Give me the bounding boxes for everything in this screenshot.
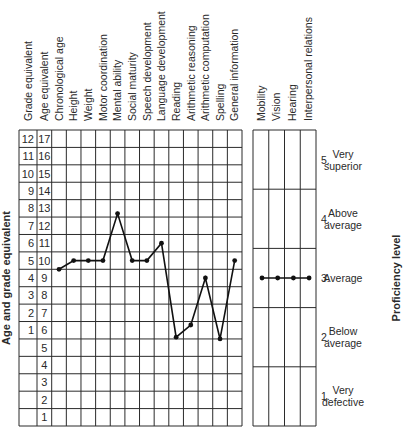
column-headers: Grade equivalentAge equivalentChronologi… [22, 11, 314, 121]
grade-tick-label: 11 [23, 150, 34, 162]
grade-tick-label: 10 [22, 168, 34, 180]
grade-tick-label: 3 [28, 289, 34, 301]
grade-tick-label: 9 [28, 185, 34, 197]
age-tick-label: 17 [38, 133, 50, 145]
column-header-label: Reading [170, 82, 182, 121]
prof-data-point [275, 276, 280, 281]
data-point [159, 241, 164, 246]
data-point [232, 258, 237, 263]
age-tick-label: 11 [39, 237, 50, 249]
data-point [86, 258, 91, 263]
column-header-label: Arithmetic computation [199, 14, 211, 121]
age-tick-label: 6 [41, 324, 47, 336]
grade-tick-label: 1 [28, 324, 34, 336]
y-axis-title-left: Age and grade equivalent [0, 211, 12, 345]
grade-tick-label: 2 [28, 307, 34, 319]
data-point [115, 211, 120, 216]
column-header-label: Motor coordination [97, 34, 109, 121]
column-header-label: Language development [155, 11, 167, 121]
age-tick-label: 2 [41, 394, 47, 406]
age-grade-tick-labels: 1211109876543211716151413121110987654321 [22, 133, 51, 424]
data-point [101, 258, 106, 263]
prof-data-point [307, 276, 312, 281]
data-point [71, 258, 76, 263]
data-point [188, 323, 193, 328]
data-point [57, 267, 62, 272]
prof-level-label: superior [324, 160, 362, 172]
prof-level-label: average [324, 219, 362, 231]
data-point [144, 258, 149, 263]
data-point [174, 335, 179, 340]
column-header-label: General information [228, 29, 240, 121]
prof-level-label: average [324, 337, 362, 349]
grade-tick-label: 12 [22, 133, 34, 145]
age-tick-label: 14 [38, 185, 50, 197]
grade-tick-label: 4 [28, 272, 34, 284]
column-header-label: Mental ability [111, 59, 123, 121]
column-header-label: Age equivalent [38, 51, 50, 121]
data-point [218, 337, 223, 342]
column-header-label: Hearing [286, 84, 298, 121]
developmental-profile-chart: Grade equivalentAge equivalentChronologi… [0, 0, 409, 440]
column-header-label: Social maturity [126, 51, 138, 121]
proficiency-series [260, 276, 312, 281]
age-tick-label: 9 [41, 272, 47, 284]
prof-level-label: Average [324, 272, 363, 284]
prof-level-label: Below [329, 325, 358, 337]
column-header-label: Height [67, 91, 79, 121]
prof-level-label: Above [328, 207, 358, 219]
column-header-label: Mobility [255, 85, 267, 121]
age-tick-label: 8 [41, 289, 47, 301]
age-tick-label: 16 [38, 150, 50, 162]
age-tick-label: 13 [38, 202, 50, 214]
series-line [59, 214, 235, 339]
grade-tick-label: 7 [28, 220, 34, 232]
grade-tick-label: 5 [28, 255, 34, 267]
age-tick-label: 7 [41, 307, 47, 319]
age-tick-label: 4 [41, 359, 47, 371]
age-grade-grid [19, 130, 242, 426]
grade-tick-label: 6 [28, 237, 34, 249]
y-axis-title-right: Proficiency level [390, 235, 402, 322]
age-tick-label: 5 [41, 342, 47, 354]
column-header-label: Spelling [214, 83, 226, 121]
prof-level-label: Very [332, 148, 354, 160]
prof-level-label: defective [322, 396, 364, 408]
age-tick-label: 10 [38, 255, 50, 267]
column-header-label: Speech development [141, 22, 153, 121]
age-tick-label: 1 [41, 411, 47, 423]
grade-tick-label: 8 [28, 202, 34, 214]
prof-data-point [260, 276, 265, 281]
data-point [130, 258, 135, 263]
column-header-label: Chronological age [53, 36, 65, 121]
age-tick-label: 15 [38, 168, 50, 180]
data-point [203, 276, 208, 281]
age-tick-label: 3 [41, 376, 47, 388]
column-header-label: Weight [82, 88, 94, 121]
proficiency-level-labels: 5.Verysuperior4.Aboveaverage3.Average2.B… [321, 148, 364, 409]
column-header-label: Vision [270, 92, 282, 121]
age-tick-label: 12 [38, 220, 50, 232]
prof-level-label: Very [332, 384, 354, 396]
column-header-label: Grade equivalent [22, 41, 34, 121]
column-header-label: Arithmetic reasoning [185, 25, 197, 121]
column-header-label: Interpersonal relations [302, 17, 314, 121]
prof-data-point [291, 276, 296, 281]
